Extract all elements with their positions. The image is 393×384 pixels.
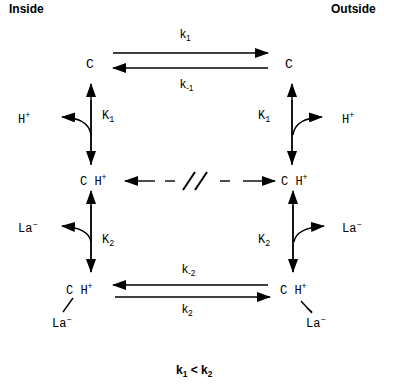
- state-c-outside: C: [285, 58, 293, 71]
- lactate-outside: La−: [342, 221, 361, 235]
- transport-cycle-diagram: Inside Outside k1 k-1 C C H+ K1 K1 H+ C …: [0, 0, 393, 384]
- eq-constant-K1-left: K1: [102, 110, 114, 125]
- proton-inside-top: H+: [18, 112, 30, 126]
- proton-outside-top: H+: [342, 112, 354, 126]
- state-chla-outside-la: La−: [306, 316, 325, 330]
- state-ch-outside: C H+: [281, 174, 308, 188]
- rate-constant-k-2: k-2: [182, 263, 195, 278]
- state-chla-inside: C H+: [66, 283, 93, 297]
- eq-constant-K2-right: K2: [258, 234, 270, 249]
- eq-constant-K2-left: K2: [102, 234, 114, 249]
- state-ch-inside: C H+: [80, 174, 107, 188]
- state-chla-inside-la: La−: [52, 316, 71, 330]
- rate-constant-k1: k1: [180, 28, 191, 43]
- eq-constant-K1-right: K1: [258, 110, 270, 125]
- outside-label: Outside: [331, 3, 376, 15]
- rate-constant-k2: k2: [182, 303, 193, 318]
- rate-relation: k1 < k2: [176, 364, 212, 379]
- state-chla-outside: C H+: [280, 283, 307, 297]
- state-c-inside: C: [86, 58, 94, 71]
- lactate-inside: La−: [18, 221, 37, 235]
- rate-constant-k-1: k-1: [180, 78, 193, 93]
- inside-label: Inside: [9, 3, 44, 15]
